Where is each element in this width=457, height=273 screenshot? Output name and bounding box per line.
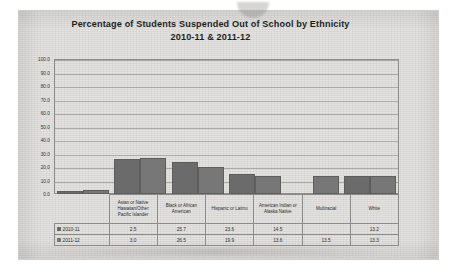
legend-label: 2011-12 (63, 238, 80, 243)
y-axis-tick-label: 70.0 (41, 97, 50, 102)
data-cell: 2.5 (109, 224, 157, 235)
bar-2011-12-1 (140, 158, 166, 194)
y-axis-tick-label: 20.0 (41, 165, 50, 170)
bar-2011-12-4 (313, 176, 339, 194)
category-label: Hispanic or Latino (206, 195, 254, 224)
category-label: Multiracial (302, 195, 350, 224)
y-axis: 100.090.080.070.060.050.040.030.020.010.… (21, 59, 52, 194)
data-cell: 25.7 (157, 224, 205, 235)
data-cell: 13.6 (254, 235, 302, 246)
bar-2010-11-2 (172, 162, 198, 194)
data-cell: 13.3 (350, 235, 398, 246)
table-row-categories: Asian or Native Hawaiian/Other Pacific I… (55, 195, 399, 224)
y-axis-tick-label: 100.0 (38, 57, 50, 62)
bar-2011-12-5 (370, 176, 396, 194)
table-row: 2011-123.026.519.913.613.513.3 (55, 235, 399, 246)
bar-group (169, 59, 227, 194)
y-axis-tick-label: 80.0 (41, 84, 50, 89)
category-label: Asian or Native Hawaiian/Other Pacific I… (109, 195, 157, 224)
chart-title: Percentage of Students Suspended Out of … (21, 18, 400, 31)
bar-group (54, 59, 112, 194)
y-axis-tick-label: 40.0 (41, 138, 50, 143)
scan-artifact-bottom (49, 248, 379, 255)
category-label: White (350, 195, 398, 224)
data-cell: 19.9 (206, 235, 254, 246)
y-axis-tick-label: 30.0 (41, 151, 50, 156)
bar-2010-11-3 (229, 174, 255, 194)
bar-group (284, 59, 342, 194)
bar-group (112, 59, 170, 194)
bar-groups (54, 59, 399, 194)
legend-entry-2010-11: 2010-11 (55, 224, 110, 235)
bar-group (342, 59, 400, 194)
chart-subtitle: 2010-11 & 2011-12 (21, 31, 400, 44)
data-cell: 23.6 (206, 224, 254, 235)
bar-group (227, 59, 285, 194)
data-cell: 13.5 (302, 235, 350, 246)
legend-swatch-icon (57, 227, 61, 231)
data-cell: 13.2 (350, 224, 398, 235)
plot-wrap (54, 59, 399, 194)
y-axis-tick-label: 10.0 (41, 178, 50, 183)
bar-2011-12-3 (255, 176, 281, 194)
y-axis-tick-label: 50.0 (41, 124, 50, 129)
chart-title-block: Percentage of Students Suspended Out of … (21, 18, 400, 43)
data-cell: 3.0 (109, 235, 157, 246)
data-cell (302, 224, 350, 235)
bar-chart: Percentage of Students Suspended Out of … (21, 12, 400, 239)
legend-label: 2010-11 (63, 227, 80, 232)
data-table-wrap: Asian or Native Hawaiian/Other Pacific I… (54, 194, 399, 246)
table-row: 2010-112.525.723.614.513.2 (55, 224, 399, 235)
bar-2011-12-2 (198, 167, 224, 194)
y-axis-tick-label: 0.0 (43, 192, 50, 197)
legend-entry-2011-12: 2011-12 (55, 235, 110, 246)
data-table: Asian or Native Hawaiian/Other Pacific I… (54, 194, 399, 246)
table-corner-cell (55, 195, 110, 224)
data-cell: 26.5 (157, 235, 205, 246)
category-label: American Indian or Alaska Native (254, 195, 302, 224)
bar-2010-11-1 (114, 159, 140, 194)
legend-swatch-icon (57, 238, 61, 242)
category-label: Black or African American (157, 195, 205, 224)
y-axis-tick-label: 90.0 (41, 70, 50, 75)
y-axis-tick-label: 60.0 (41, 111, 50, 116)
data-cell: 14.5 (254, 224, 302, 235)
bar-2010-11-5 (344, 176, 370, 194)
